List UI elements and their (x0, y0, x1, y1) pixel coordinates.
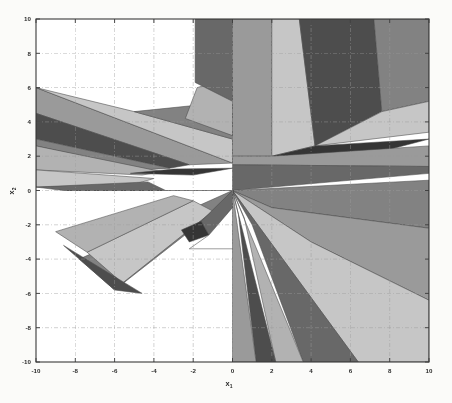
polyhedral-partition-plot: -10-8-6-4-20246810 -10-8-6-4-20246810 x1… (0, 0, 452, 403)
scan-grain-overlay (0, 0, 452, 403)
figure-container: -10-8-6-4-20246810 -10-8-6-4-20246810 x1… (0, 0, 452, 403)
